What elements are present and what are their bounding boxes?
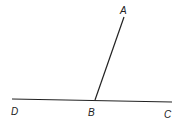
label-a: A [120, 6, 127, 16]
angle-diagram: A D B C [0, 0, 183, 127]
segment-ba [95, 17, 124, 100]
label-c: C [164, 110, 171, 120]
label-d: D [11, 107, 18, 117]
label-b: B [88, 108, 95, 118]
segment-dc [12, 99, 172, 102]
